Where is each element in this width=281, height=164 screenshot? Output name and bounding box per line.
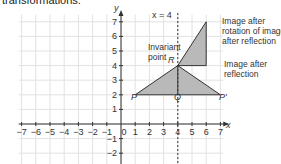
x-tick-label: −4 <box>59 127 69 137</box>
x-tick-label: 6 <box>204 127 209 137</box>
y-tick-label: 6 <box>112 31 117 41</box>
point-R-label: R <box>168 55 175 65</box>
y-tick-label: 1 <box>112 104 117 114</box>
coordinate-grid-diagram: −7−6−5−4−3−2−101234567−2−11234567 x y x … <box>0 0 281 164</box>
rotation-label-2: rotation of image <box>222 26 281 36</box>
invariant-label-1: Invariant <box>148 42 181 52</box>
y-axis-arrow-icon <box>119 10 124 16</box>
y-tick-label: −1 <box>107 134 117 144</box>
y-tick-label: 2 <box>112 90 117 100</box>
invariant-label-2: point <box>148 52 167 62</box>
rotation-label-1: Image after <box>222 16 265 26</box>
mirror-line-label: x = 4 <box>152 10 172 20</box>
x-tick-label: 1 <box>133 127 138 137</box>
rotation-label-3: after reflection <box>222 36 276 46</box>
point-Q-label: Q <box>174 92 181 102</box>
x-tick-label: 4 <box>175 127 180 137</box>
x-tick-label: 7 <box>218 127 223 137</box>
y-axis-label: y <box>113 3 119 13</box>
x-tick-label: −3 <box>73 127 83 137</box>
x-axis-label: x <box>225 120 231 130</box>
reflection-label-2: reflection <box>224 69 259 79</box>
x-tick-label: −2 <box>87 127 97 137</box>
x-tick-label: −7 <box>16 127 26 137</box>
y-tick-label: 7 <box>112 17 117 27</box>
point-P-label: P <box>131 92 137 102</box>
y-tick-label: 4 <box>112 61 117 71</box>
x-tick-label: −6 <box>31 127 41 137</box>
y-tick-label: 3 <box>112 75 117 85</box>
y-tick-label: 5 <box>112 46 117 56</box>
point-Pprime-label: P' <box>219 92 227 102</box>
reflection-label-1: Image after <box>224 59 267 69</box>
x-tick-label: −5 <box>45 127 55 137</box>
x-tick-label: 2 <box>147 127 152 137</box>
x-tick-label: 0 <box>121 127 126 137</box>
y-tick-label: −2 <box>107 148 117 158</box>
x-tick-label: 5 <box>189 127 194 137</box>
x-tick-label: 3 <box>161 127 166 137</box>
